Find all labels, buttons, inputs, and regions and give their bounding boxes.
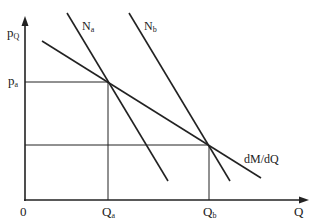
origin-label-text: 0 <box>20 204 27 219</box>
x-axis-arrow-icon <box>299 197 309 204</box>
na-label-main: N <box>82 19 91 33</box>
x-axis-label: Q <box>294 205 303 218</box>
x-axis-label-text: Q <box>294 204 303 219</box>
qb-label-sub: b <box>212 211 216 220</box>
qa-label-main: Q <box>102 204 111 219</box>
curve-dmdq <box>42 41 261 178</box>
nb-label-sub: b <box>153 25 157 34</box>
curve-nb <box>129 13 230 181</box>
y-axis-arrow-icon <box>22 16 29 26</box>
qa-label-sub: a <box>111 211 115 220</box>
nb-label: Nb <box>144 20 157 34</box>
diagram-canvas <box>0 0 319 224</box>
qb-label-main: Q <box>203 204 212 219</box>
na-label: Na <box>82 20 94 34</box>
pa-label: pa <box>8 74 18 89</box>
origin-label: 0 <box>20 205 27 218</box>
dmdq-label-text: dM/dQ <box>244 152 279 166</box>
na-label-sub: a <box>91 25 95 34</box>
pa-label-sub: a <box>15 80 19 89</box>
qb-label: Qb <box>203 205 216 220</box>
nb-label-main: N <box>144 19 153 33</box>
y-axis-label-sub: Q <box>14 32 20 41</box>
qa-label: Qa <box>102 205 115 220</box>
y-axis-label: pQ <box>7 26 19 41</box>
dmdq-label: dM/dQ <box>244 153 279 165</box>
curve-na <box>67 13 168 181</box>
